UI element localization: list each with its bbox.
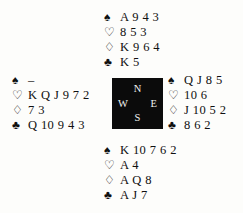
spade-icon: ♠: [104, 10, 117, 25]
compass-label-north: N: [134, 84, 142, 95]
hand-south: ♠ K 10 7 6 2 ♡ A 4 ♢ A Q 8 ♣ A J 7: [104, 143, 177, 203]
west-clubs-cards: Q 10 9 4 3: [25, 118, 85, 133]
north-spades-cards: A 9 4 3: [117, 10, 159, 25]
hand-west: ♠ – ♡ K Q J 9 7 2 ♢ 7 3 ♣ Q 10 9 4 3: [12, 73, 90, 133]
west-hearts-row: ♡ K Q J 9 7 2: [12, 88, 90, 103]
heart-icon: ♡: [12, 88, 25, 103]
compass-label-south: S: [135, 113, 141, 124]
diamond-icon: ♢: [168, 103, 181, 118]
bridge-hand-diagram: ♠ A 9 4 3 ♡ 8 5 3 ♢ K 9 6 4 ♣ K 5 ♠ – ♡ …: [0, 0, 243, 213]
compass-label-west: W: [118, 98, 128, 109]
south-clubs-cards: A J 7: [117, 188, 148, 203]
heart-icon: ♡: [168, 88, 181, 103]
spade-icon: ♠: [12, 73, 25, 88]
diamond-icon: ♢: [104, 173, 117, 188]
north-diamonds-row: ♢ K 9 6 4: [104, 40, 160, 55]
club-icon: ♣: [104, 188, 117, 203]
west-clubs-row: ♣ Q 10 9 4 3: [12, 118, 90, 133]
hand-north: ♠ A 9 4 3 ♡ 8 5 3 ♢ K 9 6 4 ♣ K 5: [104, 10, 160, 70]
south-hearts-cards: A 4: [117, 158, 139, 173]
east-diamonds-row: ♢ J 10 5 2: [168, 103, 226, 118]
east-spades-cards: Q J 8 5: [181, 73, 223, 88]
club-icon: ♣: [168, 118, 181, 133]
club-icon: ♣: [104, 55, 117, 70]
north-spades-row: ♠ A 9 4 3: [104, 10, 160, 25]
diamond-icon: ♢: [104, 40, 117, 55]
north-diamonds-cards: K 9 6 4: [117, 40, 160, 55]
west-spades-cards: –: [25, 73, 35, 88]
north-hearts-cards: 8 5 3: [117, 25, 147, 40]
east-diamonds-cards: J 10 5 2: [181, 103, 226, 118]
heart-icon: ♡: [104, 158, 117, 173]
compass-label-east: E: [151, 98, 157, 109]
spade-icon: ♠: [104, 143, 117, 158]
west-diamonds-row: ♢ 7 3: [12, 103, 90, 118]
east-hearts-cards: 10 6: [181, 88, 207, 103]
east-spades-row: ♠ Q J 8 5: [168, 73, 226, 88]
east-clubs-cards: 8 6 2: [181, 118, 211, 133]
hand-east: ♠ Q J 8 5 ♡ 10 6 ♢ J 10 5 2 ♣ 8 6 2: [168, 73, 226, 133]
west-hearts-cards: K Q J 9 7 2: [25, 88, 90, 103]
south-spades-cards: K 10 7 6 2: [117, 143, 177, 158]
compass-box: N W E S: [112, 78, 163, 129]
club-icon: ♣: [12, 118, 25, 133]
spade-icon: ♠: [168, 73, 181, 88]
east-clubs-row: ♣ 8 6 2: [168, 118, 226, 133]
south-spades-row: ♠ K 10 7 6 2: [104, 143, 177, 158]
south-diamonds-row: ♢ A Q 8: [104, 173, 177, 188]
diamond-icon: ♢: [12, 103, 25, 118]
heart-icon: ♡: [104, 25, 117, 40]
south-hearts-row: ♡ A 4: [104, 158, 177, 173]
west-diamonds-cards: 7 3: [25, 103, 45, 118]
west-spades-row: ♠ –: [12, 73, 90, 88]
south-diamonds-cards: A Q 8: [117, 173, 152, 188]
south-clubs-row: ♣ A J 7: [104, 188, 177, 203]
east-hearts-row: ♡ 10 6: [168, 88, 226, 103]
north-hearts-row: ♡ 8 5 3: [104, 25, 160, 40]
north-clubs-row: ♣ K 5: [104, 55, 160, 70]
north-clubs-cards: K 5: [117, 55, 140, 70]
